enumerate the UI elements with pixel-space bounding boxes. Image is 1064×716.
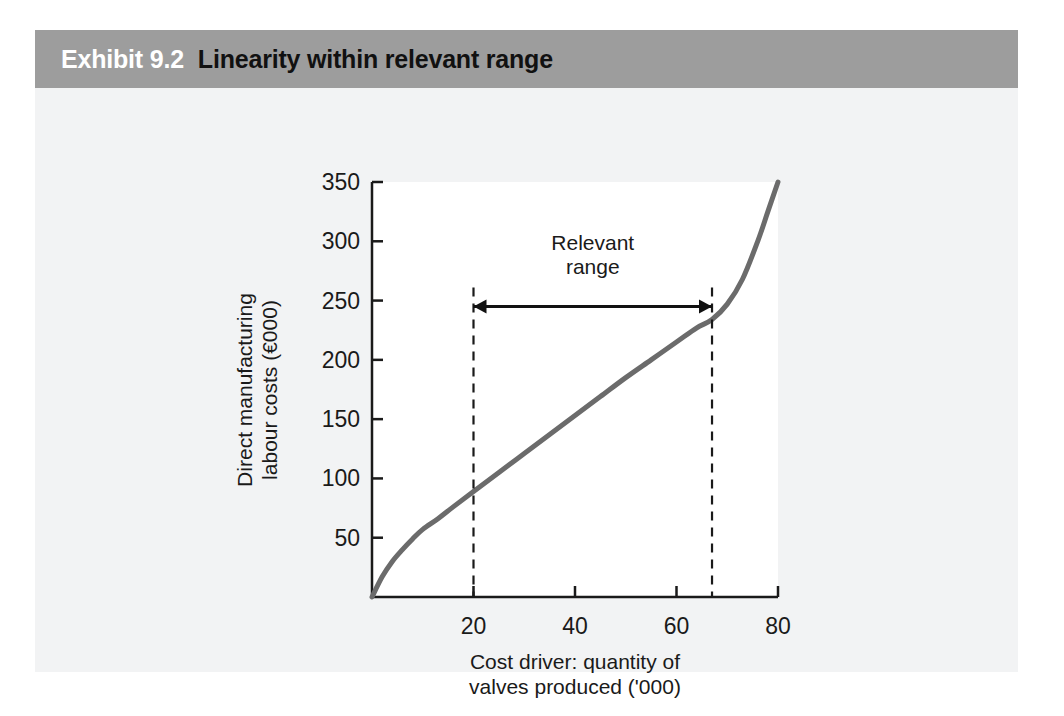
- x-axis-tick-label: 80: [765, 613, 791, 640]
- exhibit-header-bar: Exhibit 9.2 Linearity within relevant ra…: [35, 30, 1018, 88]
- exhibit-header-text: Exhibit 9.2 Linearity within relevant ra…: [35, 45, 553, 74]
- y-axis-tick-label: 150: [294, 406, 360, 433]
- y-axis-title-line-2: labour costs (€000): [258, 200, 283, 580]
- exhibit-panel: Exhibit 9.2 Linearity within relevant ra…: [35, 30, 1018, 672]
- y-axis-tick-label: 300: [294, 228, 360, 255]
- chart-svg: [35, 88, 1018, 672]
- relevant-range-arrowhead-right: [699, 300, 712, 314]
- y-axis-tick-label: 50: [294, 524, 360, 551]
- relevant-range-label: Relevant range: [473, 231, 713, 279]
- relevant-range-annotation: [474, 288, 713, 598]
- y-axis-title: Direct manufacturinglabour costs (€000): [233, 200, 287, 580]
- x-axis-tick-label: 60: [664, 613, 690, 640]
- page-root: Exhibit 9.2 Linearity within relevant ra…: [0, 0, 1064, 716]
- exhibit-title: Linearity within relevant range: [198, 45, 553, 74]
- x-axis-title-line-1: Cost driver: quantity of: [375, 649, 775, 674]
- x-axis-title-line-2: valves produced ('000): [375, 674, 775, 699]
- y-axis-tick-label: 200: [294, 346, 360, 373]
- relevant-range-label-line-1: Relevant: [473, 231, 713, 255]
- x-axis-tick-label: 20: [461, 613, 487, 640]
- y-axis-tick-label: 350: [294, 169, 360, 196]
- y-axis-ticks: [372, 182, 383, 538]
- x-axis-title: Cost driver: quantity of valves produced…: [375, 649, 775, 699]
- relevant-range-label-line-2: range: [473, 255, 713, 279]
- x-axis-ticks: [474, 586, 779, 597]
- exhibit-number: Exhibit 9.2: [61, 45, 184, 74]
- chart-container: 50100150200250300350 20406080 Direct man…: [35, 88, 1018, 672]
- y-axis-tick-label: 100: [294, 465, 360, 492]
- x-axis-tick-label: 40: [562, 613, 588, 640]
- relevant-range-arrowhead-left: [474, 300, 487, 314]
- y-axis-title-line-1: Direct manufacturing: [233, 200, 258, 580]
- y-axis-tick-label: 250: [294, 287, 360, 314]
